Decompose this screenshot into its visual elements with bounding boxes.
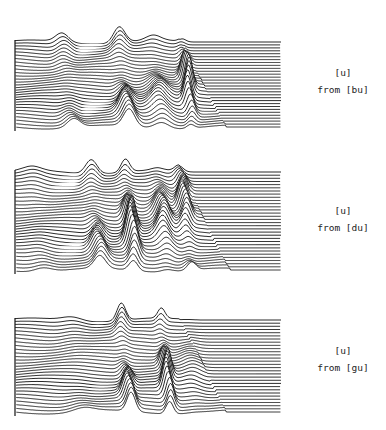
waterfall-panel-du [0, 140, 300, 278]
label-context: from [du] [300, 219, 386, 236]
waterfall-panel-bu [0, 10, 300, 135]
label-context: from [bu] [300, 81, 386, 98]
waterfall-plot-du [0, 140, 300, 278]
panel-label-bu: [u] from [bu] [300, 64, 386, 98]
panel-label-du: [u] from [du] [300, 202, 386, 236]
label-context: from [gu] [300, 359, 386, 376]
panel-label-gu: [u] from [gu] [300, 342, 386, 376]
label-vowel: [u] [300, 202, 386, 219]
waterfall-plot-gu [0, 288, 300, 420]
waterfall-plot-bu [0, 10, 300, 135]
label-vowel: [u] [300, 64, 386, 81]
waterfall-panel-gu [0, 288, 300, 420]
label-vowel: [u] [300, 342, 386, 359]
